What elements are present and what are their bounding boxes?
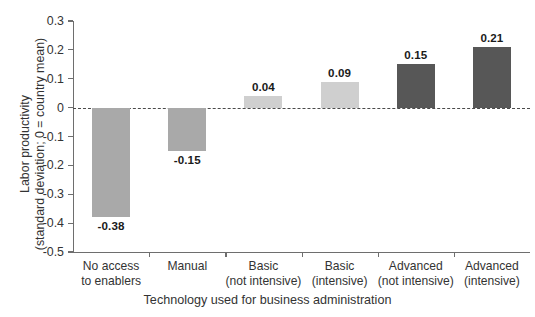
y-axis-tick [68, 136, 73, 137]
x-axis-category-label: Advanced(not intensive) [378, 259, 454, 288]
x-axis-category-label: Basic(intensive) [312, 259, 368, 288]
y-axis-tick-label: -0.1 [43, 130, 64, 144]
bar-value-label: -0.15 [174, 153, 201, 166]
x-axis-category-label-line: Advanced [378, 259, 454, 274]
x-axis-category-label: Basic(not intensive) [225, 259, 301, 288]
y-axis-line [73, 21, 74, 252]
x-axis-category-label-line: (not intensive) [378, 274, 454, 289]
zero-reference-line [73, 108, 530, 109]
x-axis-title: Technology used for business administrat… [0, 293, 535, 307]
y-axis-tick-label: 0 [57, 101, 64, 115]
y-axis-tick-label: -0.3 [43, 187, 64, 201]
y-axis-tick-label: 0.3 [47, 14, 64, 28]
y-axis-tick [68, 20, 73, 21]
y-axis-tick-label: 0.2 [47, 43, 64, 57]
bar [244, 96, 282, 108]
y-axis-tick [68, 49, 73, 50]
x-axis-tick [225, 252, 226, 257]
bar [397, 64, 435, 107]
bar [168, 108, 206, 151]
y-axis-title: Labor productivity (standard deviation; … [16, 19, 50, 269]
x-axis-tick [378, 252, 379, 257]
x-axis-tick [454, 252, 455, 257]
x-axis-tick [149, 252, 150, 257]
bar-chart: Labor productivity (standard deviation; … [0, 0, 535, 317]
y-axis-tick-label: -0.5 [43, 245, 64, 259]
y-axis-title-line-1: Labor productivity [18, 95, 33, 193]
y-axis-tick-label: 0.1 [47, 72, 64, 86]
bar-value-label: -0.38 [98, 219, 125, 232]
y-axis-tick [68, 223, 73, 224]
x-axis-category-label-line: to enablers [81, 274, 141, 289]
x-axis-category-label-line: No access [81, 259, 141, 274]
x-axis-category-label-line: (intensive) [464, 274, 520, 289]
plot-area: 0.30.20.10-0.1-0.2-0.3-0.4-0.5-0.38No ac… [73, 21, 530, 252]
bar [473, 47, 511, 108]
bar [321, 82, 359, 108]
x-axis-category-label: Manual [167, 259, 207, 274]
x-axis-category-label-line: (not intensive) [225, 274, 301, 289]
x-axis-category-label: No accessto enablers [81, 259, 141, 288]
bar-value-label: 0.04 [252, 80, 275, 93]
x-axis-category-label-line: (intensive) [312, 274, 368, 289]
bar-value-label: 0.15 [404, 48, 427, 61]
x-axis-category-label-line: Basic [312, 259, 368, 274]
x-axis-category-label-line: Manual [167, 259, 207, 274]
y-axis-tick-label: -0.2 [43, 158, 64, 172]
x-axis-category-label-line: Basic [225, 259, 301, 274]
bar-value-label: 0.09 [328, 66, 351, 79]
x-axis-tick [302, 252, 303, 257]
bar [92, 108, 130, 218]
y-axis-tick-label: -0.4 [43, 216, 64, 230]
y-axis-tick [68, 165, 73, 166]
y-axis-tick [68, 78, 73, 79]
x-axis-category-label: Advanced(intensive) [464, 259, 520, 288]
y-axis-tick [68, 194, 73, 195]
y-axis-tick [68, 251, 73, 252]
x-axis-category-label-line: Advanced [464, 259, 520, 274]
bar-value-label: 0.21 [480, 31, 503, 44]
